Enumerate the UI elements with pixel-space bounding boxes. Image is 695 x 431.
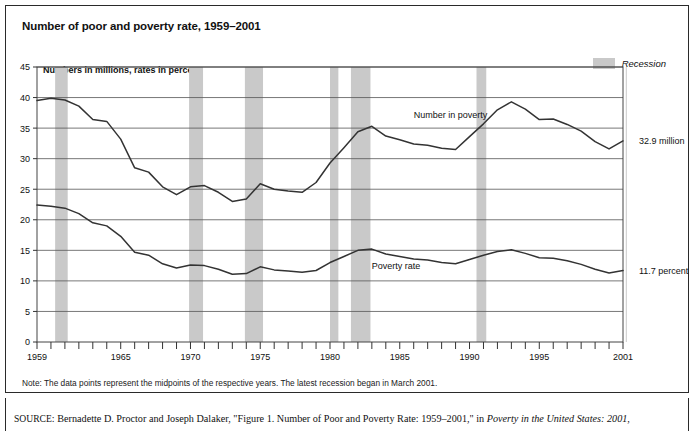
x-axis-tick-labels: 195919651970197519801985199019952001 — [27, 352, 633, 362]
source-prefix: SOURCE — [14, 413, 52, 424]
source-citation: SOURCE: Bernadette D. Proctor and Joseph… — [14, 413, 684, 424]
y-tick-label: 25 — [20, 185, 30, 195]
annotation-poverty-rate: Poverty rate — [372, 261, 421, 271]
recession-band — [245, 67, 263, 342]
endpoint-label-rate: 11.7 percent — [639, 266, 689, 276]
x-axis-ticks — [37, 342, 623, 349]
source-left-rule — [5, 398, 6, 431]
annotation-number-in-poverty: Number in poverty — [414, 110, 488, 120]
source-title-italic: Poverty in the United States: 2001 — [487, 413, 628, 424]
source-right-rule — [688, 398, 689, 431]
recession-band — [55, 67, 68, 342]
y-tick-label: 15 — [20, 246, 30, 256]
recession-bands — [55, 67, 627, 342]
y-tick-label: 35 — [20, 124, 30, 134]
chart-plot: 051015202530354045 195919651970197519801… — [6, 6, 690, 394]
recession-band — [626, 67, 627, 342]
figure-note: Note: The data points represent the midp… — [22, 378, 437, 388]
figure-box: Number of poor and poverty rate, 1959–20… — [5, 5, 689, 393]
x-tick-label: 1959 — [27, 352, 47, 362]
source-suffix: , — [627, 413, 630, 424]
recession-band — [351, 67, 371, 342]
endpoint-value-labels: 32.9 million11.7 percent — [639, 136, 689, 276]
y-tick-label: 10 — [20, 276, 30, 286]
y-tick-label: 40 — [20, 93, 30, 103]
x-tick-label: 1980 — [320, 352, 340, 362]
recession-band — [330, 67, 338, 342]
series-annotations: Number in povertyPoverty rate — [372, 110, 488, 271]
x-tick-label: 1965 — [111, 352, 131, 362]
endpoint-label-number: 32.9 million — [639, 136, 685, 146]
recession-band — [477, 67, 487, 342]
x-tick-label: 1990 — [460, 352, 480, 362]
y-tick-label: 0 — [25, 337, 30, 347]
x-tick-label: 1975 — [250, 352, 270, 362]
source-text: : Bernadette D. Proctor and Joseph Dalak… — [52, 413, 487, 424]
y-tick-label: 5 — [25, 307, 30, 317]
y-tick-label: 20 — [20, 215, 30, 225]
x-tick-label: 1970 — [180, 352, 200, 362]
x-tick-label: 1995 — [529, 352, 549, 362]
y-tick-label: 30 — [20, 154, 30, 164]
x-tick-label: 1985 — [390, 352, 410, 362]
y-axis-tick-labels: 051015202530354045 — [20, 62, 37, 347]
recession-band — [189, 67, 203, 342]
y-tick-label: 45 — [20, 62, 30, 72]
figure-page: Number of poor and poverty rate, 1959–20… — [0, 0, 695, 431]
x-tick-label: 2001 — [613, 352, 633, 362]
